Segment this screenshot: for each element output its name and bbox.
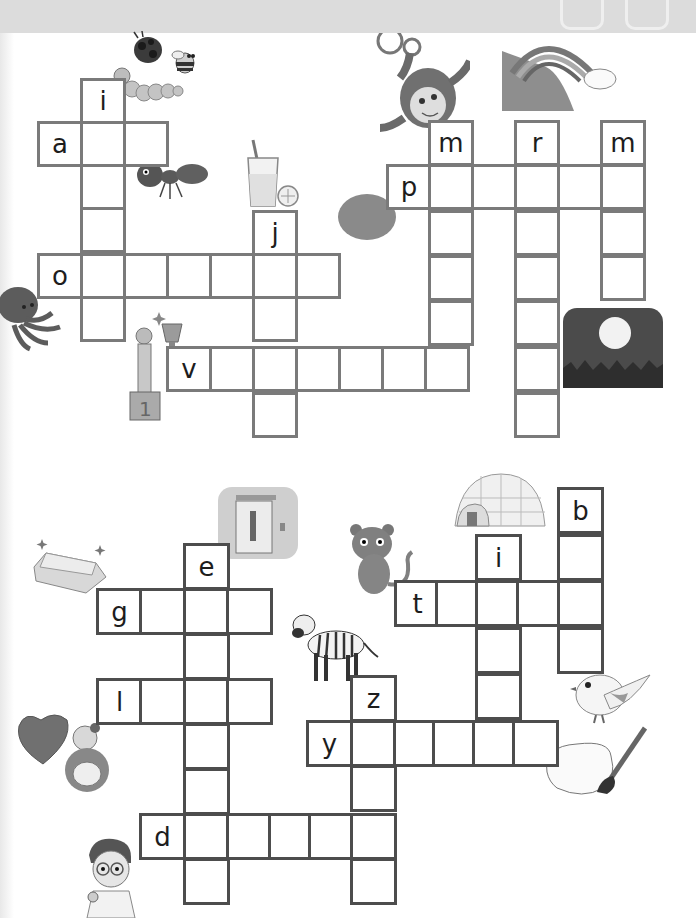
cell-letter: d [154,824,171,850]
crossword-cell-clue-g[interactable]: g [96,588,143,635]
crossword-cell-blank[interactable] [475,627,522,674]
crossword-cell-clue-d[interactable]: d [139,813,186,860]
crossword-cell-blank[interactable] [183,588,230,635]
crossword-cell-clue-e[interactable]: e [183,543,230,590]
cell-letter: b [572,498,589,524]
crossword-cell-clue-b[interactable]: b [557,487,604,534]
crossword-cell-blank[interactable] [183,813,230,860]
cell-letter: z [367,686,381,712]
cell-letter: i [495,545,502,571]
crossword-cell-blank[interactable] [475,580,522,627]
cell-letter: t [412,591,422,617]
crossword-cell-blank[interactable] [183,768,230,815]
crossword-cell-clue-i[interactable]: i [475,534,522,581]
crossword-cell-blank[interactable] [512,720,559,767]
cell-letter: e [199,554,215,580]
crossword-cell-blank[interactable] [557,534,604,581]
crossword-cell-blank[interactable] [350,765,397,812]
crossword-cell-blank[interactable] [226,588,273,635]
cell-letter: y [322,731,337,757]
cell-letter: l [116,689,123,715]
crossword-cell-clue-z[interactable]: z [350,675,397,722]
crossword-cell-blank[interactable] [226,813,273,860]
crossword-cell-blank[interactable] [516,580,563,627]
crossword-cell-blank[interactable] [139,678,186,725]
crossword-cell-blank[interactable] [350,720,397,767]
crossword-bottom: egldzyitb [0,0,696,918]
crossword-cell-blank[interactable] [557,627,604,674]
crossword-cell-blank[interactable] [183,858,230,905]
crossword-cell-blank[interactable] [226,678,273,725]
crossword-cell-clue-l[interactable]: l [96,678,143,725]
crossword-cell-blank[interactable] [183,723,230,770]
crossword-cell-blank[interactable] [308,813,355,860]
crossword-cell-blank[interactable] [350,858,397,905]
crossword-cell-clue-y[interactable]: y [306,720,353,767]
crossword-cell-clue-t[interactable]: t [394,580,441,627]
crossword-cell-blank[interactable] [183,633,230,680]
crossword-cell-blank[interactable] [475,673,522,720]
crossword-cell-blank[interactable] [183,678,230,725]
crossword-cell-blank[interactable] [350,813,397,860]
crossword-cell-blank[interactable] [139,588,186,635]
crossword-cell-blank[interactable] [557,580,604,627]
cell-letter: g [111,599,128,625]
